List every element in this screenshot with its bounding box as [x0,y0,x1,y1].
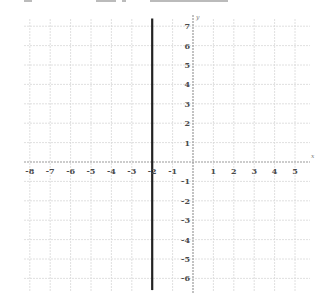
y-tick-label: -2 [181,196,190,206]
x-tick-label: -8 [25,166,34,176]
y-tick-label: 1 [184,138,190,148]
y-tick-label: 2 [184,118,190,128]
x-tick-label: -6 [66,166,75,176]
y-tick-label: 4 [184,79,190,89]
y-axis-label: y [195,13,200,21]
y-tick-label: 7 [184,21,190,31]
x-tick-label: -1 [168,166,177,176]
x-tick-label: 5 [292,166,298,176]
x-tick-label: -2 [148,166,157,176]
coordinate-plane: xy -8-7-6-5-4-3-2-1123457654321-1-2-3-4-… [0,0,317,294]
x-tick-label: 3 [251,166,257,176]
y-tick-label: -4 [181,235,190,245]
y-tick-label: -1 [181,176,190,186]
grid-lines [24,19,310,292]
x-tick-label: -5 [87,166,96,176]
tick-labels: -8-7-6-5-4-3-2-1123457654321-1-2-3-4-5-6 [25,21,297,283]
axes: xy [24,13,315,294]
x-tick-label: -4 [107,166,116,176]
y-tick-label: -3 [181,215,190,225]
y-tick-label: 6 [184,41,190,51]
y-tick-label: -6 [181,273,190,283]
y-tick-label: 5 [184,60,190,70]
x-axis-label: x [311,152,315,159]
x-tick-label: 2 [231,166,237,176]
x-tick-label: 4 [272,166,278,176]
x-tick-label: 1 [211,166,217,176]
y-tick-label: 3 [184,99,190,109]
x-tick-label: -7 [46,166,55,176]
y-tick-label: -5 [181,254,190,264]
x-tick-label: -3 [127,166,136,176]
